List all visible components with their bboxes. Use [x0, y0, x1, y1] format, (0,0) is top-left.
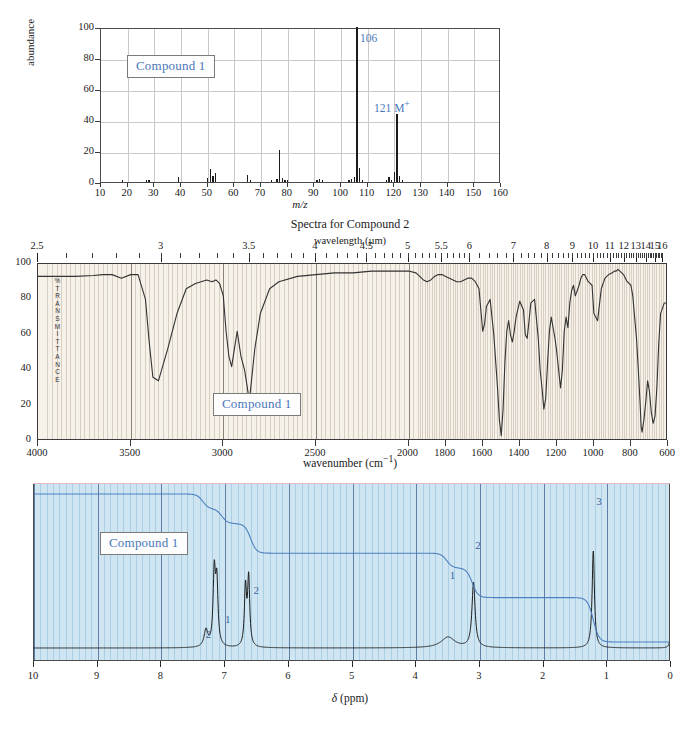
ir-wavelength-minor-tickmark: [315, 253, 316, 258]
ms-x-tick: 20: [115, 187, 139, 198]
ir-ylabel-char: T: [52, 338, 63, 346]
ir-wavelength-minor-tickmark: [199, 253, 200, 258]
ms-peak: [386, 180, 387, 182]
ir-y-tick: 40: [5, 362, 31, 373]
ir-trace: [38, 264, 667, 440]
ir-plot-area: [37, 263, 667, 440]
ir-wavelength-minor-tickmark: [558, 253, 559, 258]
ir-x-tickmark: [556, 440, 557, 446]
ms-peak: [319, 179, 320, 182]
nmr-ppm-units: (ppm): [340, 692, 368, 704]
nmr-x-tick: 7: [212, 670, 236, 681]
ms-x-tick: 60: [221, 187, 245, 198]
ir-wavelength-minor-tickmark: [610, 253, 611, 258]
ms-y-tickmark: [95, 59, 100, 60]
ir-xlab-exp: −1: [383, 453, 393, 464]
ms-gridline-v: [448, 29, 449, 182]
ms-peak: [396, 114, 397, 182]
ir-x-axis-label: wavenumber (cm−1): [0, 453, 700, 469]
ir-wavelength-minor-tickmark: [464, 253, 465, 258]
ir-wavelength-minor-tickmark: [621, 253, 622, 258]
ms-peak: [348, 180, 349, 182]
nmr-x-tickmark: [33, 661, 34, 667]
ir-wavelength-minor-tickmark: [249, 253, 250, 258]
ir-wavelength-minor-tickmark: [392, 253, 393, 258]
ir-wavelength-minor-tickmark: [618, 253, 619, 258]
ir-wavelength-minor-tickmark: [644, 253, 645, 258]
ir-wavelength-minor-tickmark: [541, 253, 542, 258]
ms-x-tickmark: [207, 183, 208, 187]
ms-x-tick: 80: [275, 187, 299, 198]
ir-x-tickmark: [593, 440, 594, 446]
ir-wavelength-minor-tickmark: [600, 253, 601, 258]
nmr-integration-label: 1: [450, 569, 456, 581]
ms-y-tickmark: [95, 28, 100, 29]
ms-x-tick: 30: [141, 187, 165, 198]
ms-y-tickmark: [95, 152, 100, 153]
ms-gridline-v: [314, 29, 315, 182]
ir-ylabel-char: T: [52, 285, 63, 293]
nmr-delta-symbol: δ: [332, 692, 337, 704]
ms-x-tickmark: [260, 183, 261, 187]
ms-peak: [247, 175, 248, 182]
ir-ylabel-char: M: [52, 323, 63, 331]
ir-ylabel-char: %: [52, 277, 63, 285]
ir-y-axis-label: %TRANSMITTANCE: [52, 277, 63, 383]
ir-wavelength-tick: 6: [457, 240, 481, 251]
ms-x-tickmark: [287, 183, 288, 187]
ir-wavelength-minor-tickmark: [263, 253, 264, 258]
ir-wavelength-minor-tickmark: [589, 253, 590, 258]
ms-gridline-v: [421, 29, 422, 182]
ir-wavelength-minor-tickmark: [585, 253, 586, 258]
ir-x-tickmark: [37, 440, 38, 446]
nmr-x-tick: 9: [85, 670, 109, 681]
ir-x-tickmark: [222, 440, 223, 446]
ir-ylabel-char: I: [52, 330, 63, 338]
nmr-x-axis-label: δ (ppm): [0, 692, 700, 704]
ms-x-tick: 130: [408, 187, 432, 198]
ms-x-tickmark: [100, 183, 101, 187]
nmr-x-tick: 2: [531, 670, 555, 681]
ms-peak: [207, 178, 208, 182]
ir-wavelength-minor-tickmark: [337, 253, 338, 258]
ir-wavelength-minor-tickmark: [581, 253, 582, 258]
ir-x-tickmark: [445, 440, 446, 446]
ms-peak: [212, 176, 213, 182]
ir-ylabel-char: T: [52, 345, 63, 353]
nmr-x-tickmark: [97, 661, 98, 667]
ms-gridline-v: [261, 29, 262, 182]
ms-peak: [215, 173, 216, 182]
ir-x-tickmark: [130, 440, 131, 446]
ms-peak: [284, 180, 285, 182]
ir-wavelength-minor-tickmark: [347, 253, 348, 258]
ir-wavelength-minor-tickmark: [572, 253, 573, 258]
ir-wavelength-minor-tickmark: [291, 253, 292, 258]
ms-peak: [351, 179, 352, 182]
ir-wavelength-minor-tickmark: [646, 253, 647, 258]
ir-wavelength-minor-tickmark: [459, 253, 460, 258]
mass-spectrum-panel: abundance 100806040200 10203040506070809…: [0, 0, 700, 215]
ms-x-tick: 90: [301, 187, 325, 198]
ir-wavelength-tick: 16: [650, 240, 674, 251]
ir-wavelength-minor-tickmark: [603, 253, 604, 258]
ir-wavelength-minor-tickmark: [563, 253, 564, 258]
ms-peak: [178, 177, 179, 182]
ir-wavelength-minor-tickmark: [662, 253, 663, 258]
ir-x-tickmark: [630, 440, 631, 446]
ir-wavelength-tickmark: [37, 253, 38, 262]
ms-gridline-v: [154, 29, 155, 182]
ms-peak: [391, 180, 392, 182]
ir-top-tick-marks: [37, 253, 667, 263]
ir-ylabel-char: N: [52, 361, 63, 369]
figure-title: Spectra for Compound 2: [0, 217, 700, 232]
ir-wavelength-minor-tickmark: [217, 253, 218, 258]
ir-wavelength-minor-tickmark: [534, 253, 535, 258]
ir-wavelength-minor-tickmark: [552, 253, 553, 258]
ir-wavelength-minor-tickmark: [631, 253, 632, 258]
ms-x-tick: 10: [88, 187, 112, 198]
ir-wavelength-tick: 5: [396, 240, 420, 251]
ms-x-tick: 150: [461, 187, 485, 198]
nmr-spectrum-panel: 109876543210 δ (ppm) Compound 1 212123: [0, 470, 700, 737]
ir-wavelength-minor-tickmark: [453, 253, 454, 258]
ir-wavelength-minor-tickmark: [597, 253, 598, 258]
